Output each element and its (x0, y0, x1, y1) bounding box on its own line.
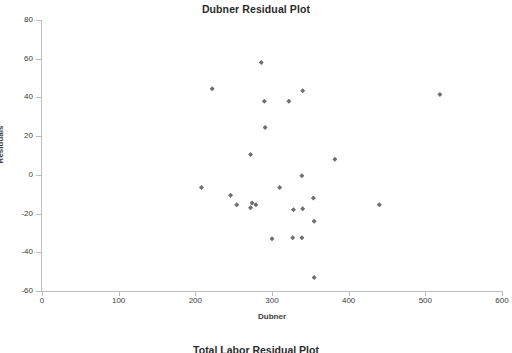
y-tick-label: -20 (5, 210, 33, 218)
data-point (332, 157, 337, 162)
y-tick-label: 40 (5, 93, 33, 101)
data-point (299, 173, 304, 178)
x-tick-label: 400 (329, 296, 369, 305)
data-point (291, 207, 296, 212)
y-tick-label: 0 (5, 171, 33, 179)
y-tick-label: 60 (5, 55, 33, 63)
data-point (259, 60, 264, 65)
data-point (263, 125, 268, 130)
data-point (377, 202, 382, 207)
x-tick-label: 500 (405, 296, 445, 305)
data-point (270, 236, 275, 241)
data-point (234, 202, 239, 207)
plot-area (42, 20, 502, 291)
data-point (248, 205, 253, 210)
next-chart-title: Total Labor Residual Plot (0, 344, 512, 353)
y-tick-label: -60 (5, 287, 33, 295)
y-axis-title: Residuals (0, 126, 5, 164)
y-tick-label: -40 (5, 248, 33, 256)
data-point (300, 206, 305, 211)
x-tick-label: 600 (482, 296, 512, 305)
x-tick-label: 100 (99, 296, 139, 305)
x-axis-title: Dubner (42, 312, 502, 321)
y-tick-label: 80 (5, 16, 33, 24)
x-tick-label: 0 (22, 296, 62, 305)
data-point (311, 196, 316, 201)
data-point (210, 86, 215, 91)
x-tick-label: 300 (252, 296, 292, 305)
chart-title: Dubner Residual Plot (0, 3, 512, 15)
data-point (300, 88, 305, 93)
y-tick-label: 20 (5, 132, 33, 140)
data-point (299, 235, 304, 240)
data-point (248, 152, 253, 157)
data-point (290, 235, 295, 240)
data-point (437, 92, 442, 97)
data-point (277, 185, 282, 190)
data-point (262, 99, 267, 104)
data-point (286, 99, 291, 104)
data-point (199, 185, 204, 190)
data-point (228, 193, 233, 198)
data-point (312, 275, 317, 280)
data-point (312, 219, 317, 224)
x-tick-label: 200 (175, 296, 215, 305)
